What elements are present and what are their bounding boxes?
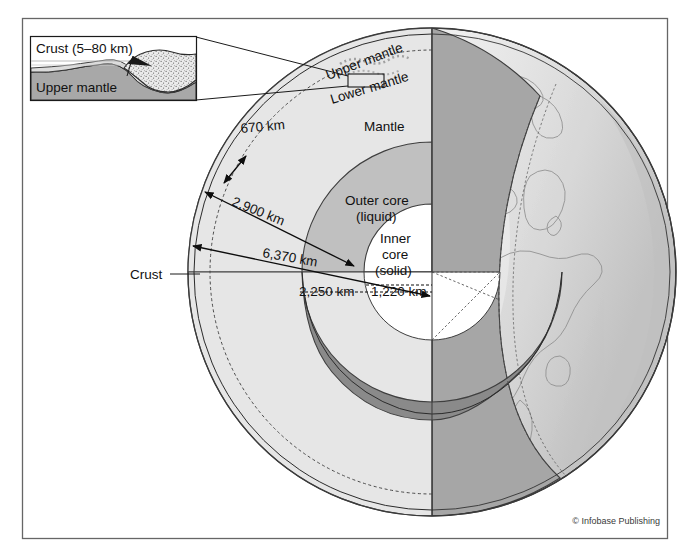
label-crust: Crust <box>130 267 163 282</box>
label-inner-core-line2: core <box>382 247 408 262</box>
label-mantle: Mantle <box>364 119 405 134</box>
label-1220km: 1,220 km <box>371 284 427 299</box>
label-2250km: 2,250 km <box>299 284 355 299</box>
publisher-credit: © Infobase Publishing <box>572 516 660 526</box>
earth-cross-section-figure: Upper mantle Lower mantle Mantle Outer c… <box>0 0 685 555</box>
label-outer-core-line1: Outer core <box>345 193 409 208</box>
figure-canvas: Upper mantle Lower mantle Mantle Outer c… <box>0 0 685 555</box>
label-outer-core-line2: (liquid) <box>356 209 397 224</box>
inset-label-crust: Crust (5–80 km) <box>36 41 133 56</box>
label-inner-core-line1: Inner <box>380 231 411 246</box>
inset-label-upper-mantle: Upper mantle <box>36 80 117 95</box>
label-inner-core-line3: (solid) <box>375 263 412 278</box>
